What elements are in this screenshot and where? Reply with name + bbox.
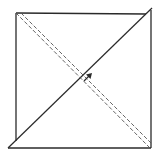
square-top-edge — [16, 13, 146, 14]
fold-diagram — [0, 0, 157, 157]
dashed-fold-line-1 — [16, 13, 150, 148]
